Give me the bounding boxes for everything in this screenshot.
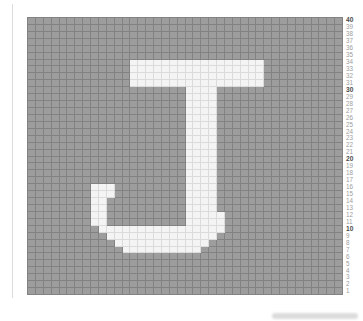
grid-cell <box>107 87 115 94</box>
grid-cell <box>186 60 194 67</box>
grid-cell <box>44 157 52 164</box>
grid-cell <box>60 66 68 73</box>
grid-cell <box>280 253 288 260</box>
grid-cell <box>162 73 170 80</box>
grid-cell <box>170 129 178 136</box>
grid-cell <box>52 253 60 260</box>
grid-cell <box>170 233 178 240</box>
grid-cell <box>304 39 312 46</box>
grid-cell <box>130 281 138 288</box>
grid-cell <box>146 129 154 136</box>
grid-cell <box>162 219 170 226</box>
grid-cell <box>304 122 312 129</box>
grid-cell <box>99 274 107 281</box>
grid-cell <box>28 274 36 281</box>
grid-cell <box>186 25 194 32</box>
grid-cell <box>335 163 343 170</box>
grid-cell <box>36 80 44 87</box>
grid-cell <box>44 184 52 191</box>
grid-cell <box>83 32 91 39</box>
grid-cell <box>28 288 36 295</box>
grid-cell <box>75 136 83 143</box>
grid-cell <box>130 73 138 80</box>
grid-cell <box>319 205 327 212</box>
grid-cell <box>170 274 178 281</box>
grid-cell <box>241 46 249 53</box>
grid-cell <box>280 198 288 205</box>
grid-cell <box>130 240 138 247</box>
grid-cell <box>83 129 91 136</box>
grid-cell <box>75 94 83 101</box>
grid-cell <box>280 73 288 80</box>
grid-cell <box>91 163 99 170</box>
grid-cell <box>60 247 68 254</box>
grid-cell <box>249 157 257 164</box>
grid-cell <box>335 288 343 295</box>
grid-cell <box>83 260 91 267</box>
grid-cell <box>123 115 131 122</box>
grid-cell <box>146 205 154 212</box>
grid-cell <box>83 191 91 198</box>
grid-cell <box>44 247 52 254</box>
grid-cell <box>296 108 304 115</box>
grid-cell <box>83 157 91 164</box>
grid-cell <box>107 177 115 184</box>
grid-cell <box>249 274 257 281</box>
grid-cell <box>209 177 217 184</box>
grid-cell <box>256 170 264 177</box>
grid-cell <box>36 288 44 295</box>
grid-cell <box>312 198 320 205</box>
grid-cell <box>312 157 320 164</box>
grid-cell <box>44 163 52 170</box>
grid-cell <box>217 198 225 205</box>
grid-cell <box>123 163 131 170</box>
grid-cell <box>44 260 52 267</box>
grid-cell <box>225 267 233 274</box>
grid-cell <box>162 177 170 184</box>
grid-cell <box>193 66 201 73</box>
grid-cell <box>99 18 107 25</box>
grid-cell <box>201 53 209 60</box>
grid-cell <box>256 219 264 226</box>
grid-cell <box>138 288 146 295</box>
grid-cell <box>91 80 99 87</box>
grid-cell <box>75 25 83 32</box>
grid-cell <box>304 25 312 32</box>
grid-cell <box>107 281 115 288</box>
grid-cell <box>335 73 343 80</box>
grid-cell <box>327 247 335 254</box>
grid-cell <box>186 150 194 157</box>
grid-cell <box>264 247 272 254</box>
grid-cell <box>83 18 91 25</box>
grid-cell <box>75 150 83 157</box>
grid-cell <box>209 163 217 170</box>
grid-cell <box>225 66 233 73</box>
grid-cell <box>249 66 257 73</box>
grid-cell <box>99 53 107 60</box>
grid-cell <box>178 46 186 53</box>
grid-cell <box>272 240 280 247</box>
grid-cell <box>296 274 304 281</box>
grid-cell <box>123 101 131 108</box>
grid-cell <box>193 150 201 157</box>
grid-cell <box>115 25 123 32</box>
grid-cell <box>335 170 343 177</box>
grid-cell <box>296 101 304 108</box>
grid-cell <box>115 240 123 247</box>
grid-cell <box>83 87 91 94</box>
grid-cell <box>60 205 68 212</box>
grid-cell <box>249 226 257 233</box>
grid-cell <box>241 226 249 233</box>
grid-cell <box>44 115 52 122</box>
grid-cell <box>170 143 178 150</box>
grid-cell <box>241 157 249 164</box>
grid-cell <box>201 163 209 170</box>
grid-cell <box>256 25 264 32</box>
grid-cell <box>233 191 241 198</box>
grid-cell <box>99 177 107 184</box>
grid-cell <box>28 80 36 87</box>
grid-cell <box>327 150 335 157</box>
grid-cell <box>256 122 264 129</box>
grid-cell <box>256 274 264 281</box>
grid-cell <box>28 157 36 164</box>
